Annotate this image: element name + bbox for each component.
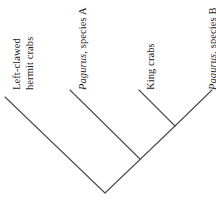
taxon-label-left-clawed-hermit-crabs-line1: Left-clawed [11, 38, 22, 90]
taxon-label-pagurus-species-a-suffix: , species A [77, 7, 88, 53]
taxon-label-pagurus-species-a: Pagurus, species A [77, 7, 88, 90]
taxon-label-left-clawed-hermit-crabs-line2: hermit crabs [24, 37, 35, 90]
branch-node2-to-pagurus-species-a [70, 90, 140, 159]
branch-root-to-left-clawed-hermit-crabs [5, 97, 105, 193]
genus-name-pagurus-a: Pagurus [77, 54, 88, 90]
branch-node1-to-king-crabs [139, 90, 175, 126]
genus-name-pagurus-b: Pagurus [207, 54, 216, 90]
tree-branches [0, 0, 216, 212]
taxon-label-pagurus-species-b: Pagurus, species B [207, 7, 216, 90]
branch-node1-to-pagurus-species-b [175, 90, 212, 126]
taxon-label-pagurus-species-b-suffix: , species B [207, 7, 216, 53]
cladogram-figure: Left-clawed hermit crabs Pagurus, specie… [0, 0, 216, 212]
taxon-label-king-crabs: King crabs [145, 43, 156, 90]
